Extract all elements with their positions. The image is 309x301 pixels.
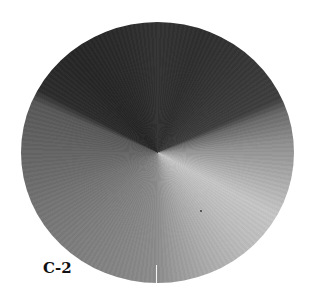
- figure-canvas: C-2: [0, 0, 309, 301]
- gradient-seam-line: [156, 265, 157, 283]
- dust-speck: [200, 210, 202, 212]
- figure-label: C-2: [43, 261, 72, 276]
- gradient-disk: [21, 22, 294, 283]
